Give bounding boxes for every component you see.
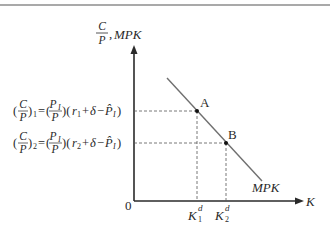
- svg-text:C: C: [98, 20, 106, 32]
- svg-text:P: P: [50, 143, 58, 155]
- svg-text:2: 2: [77, 142, 81, 151]
- svg-text:): ): [117, 104, 121, 118]
- svg-text:δ: δ: [90, 136, 96, 150]
- svg-text:P̂: P̂: [104, 104, 113, 118]
- investment-demand-diagram: C P , MPK K 0 MPK A B K d 1 K d 2 ( C P …: [0, 0, 330, 232]
- svg-text:P: P: [50, 111, 58, 123]
- svg-text:): ): [28, 104, 32, 118]
- y-axis-arrow-icon: [131, 45, 138, 54]
- svg-text:+: +: [82, 104, 89, 118]
- k2d-label: K d 2: [214, 203, 230, 224]
- point-a-label: A: [200, 95, 210, 110]
- svg-text:MPK: MPK: [113, 27, 143, 42]
- y-axis-label: C P , MPK: [96, 20, 143, 46]
- svg-text:)(: )(: [62, 104, 70, 118]
- svg-text:δ: δ: [90, 104, 96, 118]
- svg-text:I: I: [112, 142, 116, 151]
- svg-text:P: P: [18, 111, 26, 123]
- k1d-label: K d 1: [187, 203, 203, 224]
- mpk-curve-label: MPK: [251, 180, 281, 195]
- svg-text:d: d: [198, 203, 203, 213]
- mpk-curve: [167, 78, 262, 181]
- svg-text:1: 1: [77, 110, 81, 119]
- svg-text:): ): [28, 136, 32, 150]
- x-axis-arrow-icon: [295, 198, 304, 205]
- svg-text:C: C: [19, 130, 27, 142]
- svg-text:)(: )(: [62, 136, 70, 150]
- svg-text:I: I: [112, 110, 116, 119]
- svg-text:P̂: P̂: [104, 136, 113, 150]
- origin-label: 0: [125, 198, 132, 213]
- svg-text:1: 1: [33, 110, 37, 119]
- y-axis: [131, 45, 138, 201]
- svg-text:P: P: [97, 34, 105, 46]
- svg-text:): ): [117, 136, 121, 150]
- svg-text:K: K: [214, 208, 225, 223]
- svg-text:P: P: [48, 130, 56, 142]
- svg-text:−: −: [97, 104, 104, 118]
- point-a: [195, 109, 199, 113]
- svg-text:=: =: [38, 136, 45, 150]
- svg-text:d: d: [225, 203, 230, 213]
- svg-text:2: 2: [33, 142, 37, 151]
- point-b-label: B: [228, 127, 237, 142]
- svg-text:+: +: [82, 136, 89, 150]
- svg-text:,: ,: [109, 26, 112, 41]
- svg-text:P: P: [48, 98, 56, 110]
- svg-text:C: C: [19, 98, 27, 110]
- svg-text:K: K: [187, 208, 198, 223]
- x-axis-label: K: [305, 194, 316, 209]
- svg-text:(: (: [13, 136, 17, 150]
- svg-text:P: P: [18, 143, 26, 155]
- svg-text:2: 2: [225, 215, 229, 224]
- x-axis: [134, 198, 304, 205]
- equation-1: ( C P ) 1 = ( P I P )( r 1 + δ − P̂ I ): [13, 98, 121, 123]
- svg-text:(: (: [13, 104, 17, 118]
- svg-text:=: =: [38, 104, 45, 118]
- svg-text:−: −: [97, 136, 104, 150]
- equation-2: ( C P ) 2 = ( P I P )( r 2 + δ − P̂ I ): [13, 130, 121, 155]
- svg-text:1: 1: [198, 215, 202, 224]
